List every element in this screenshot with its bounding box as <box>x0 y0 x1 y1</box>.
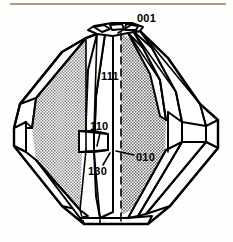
label-001: 001 <box>137 12 156 24</box>
label-130: 130 <box>88 165 107 177</box>
label-111: 111 <box>101 70 119 82</box>
crystal-figure: 001 111 110 010 130 <box>0 0 233 242</box>
label-110: 110 <box>90 120 108 132</box>
label-010: 010 <box>136 151 155 163</box>
cap-facet-mid <box>110 24 124 30</box>
crystal-body: 001 111 110 010 130 <box>14 12 218 224</box>
crystal-drawing: 001 111 110 010 130 <box>0 0 233 242</box>
